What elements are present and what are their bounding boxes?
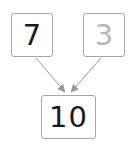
result-box: 10 — [41, 95, 96, 139]
arrow-left-to-sum — [36, 58, 64, 91]
operand-box-right: 3 — [83, 13, 125, 57]
arrow-right-to-sum — [72, 58, 101, 91]
operand-left-value: 7 — [23, 21, 41, 50]
operand-box-left: 7 — [11, 13, 53, 57]
operand-right-value: 3 — [95, 21, 113, 50]
result-value: 10 — [49, 103, 88, 132]
